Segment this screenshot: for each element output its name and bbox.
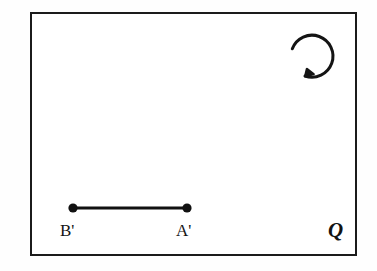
plane-q-rectangle xyxy=(30,12,357,256)
endpoint-dot-b-prime xyxy=(68,203,77,212)
endpoint-dot-a-prime xyxy=(182,203,191,212)
point-label-b-prime: B' xyxy=(60,222,74,239)
plane-label-q: Q xyxy=(328,220,343,241)
point-label-a-prime: A' xyxy=(176,222,191,239)
figure-canvas: B' A' Q xyxy=(0,0,377,271)
